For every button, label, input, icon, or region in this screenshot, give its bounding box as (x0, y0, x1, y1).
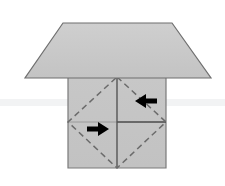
diagram-svg (0, 0, 225, 186)
origami-diagram-canvas: Origami fold step diagram (0, 0, 225, 186)
